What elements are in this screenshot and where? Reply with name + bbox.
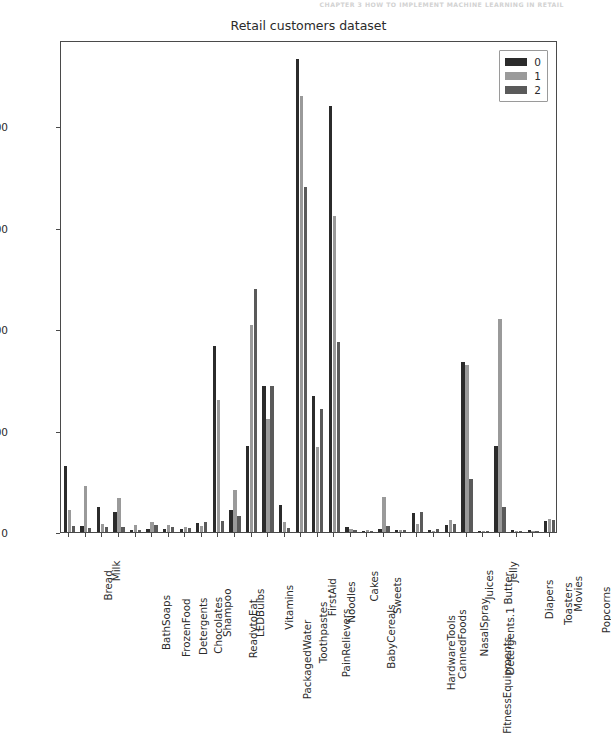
bar[interactable] <box>494 446 497 532</box>
bar[interactable] <box>329 106 332 532</box>
bar[interactable] <box>469 479 472 532</box>
bar[interactable] <box>399 530 402 532</box>
bar[interactable] <box>254 289 257 532</box>
x-tick-label: Sweets <box>391 577 403 614</box>
bar[interactable] <box>528 530 531 532</box>
bar[interactable] <box>64 466 67 532</box>
legend-item[interactable]: 2 <box>505 83 541 97</box>
bar[interactable] <box>154 525 157 532</box>
bar[interactable] <box>449 520 452 532</box>
bar[interactable] <box>101 524 104 532</box>
bar[interactable] <box>370 531 373 532</box>
bar[interactable] <box>134 525 137 532</box>
bar[interactable] <box>428 530 431 532</box>
bar[interactable] <box>519 531 522 532</box>
bar[interactable] <box>548 519 551 532</box>
bar[interactable] <box>453 524 456 532</box>
x-tick-label: Detergents.1 <box>504 607 516 674</box>
bar[interactable] <box>486 531 489 532</box>
x-tick-label-text: FrozenFood <box>180 598 192 656</box>
bar[interactable] <box>229 510 232 532</box>
bar[interactable] <box>221 521 224 532</box>
bar[interactable] <box>279 505 282 532</box>
bar[interactable] <box>337 342 340 532</box>
bar[interactable] <box>416 524 419 532</box>
bar[interactable] <box>130 530 133 532</box>
bar[interactable] <box>88 528 91 532</box>
bar[interactable] <box>287 528 290 532</box>
bar[interactable] <box>204 522 207 532</box>
bar[interactable] <box>535 531 538 532</box>
bar[interactable] <box>213 346 216 532</box>
bar[interactable] <box>146 529 149 532</box>
bar[interactable] <box>188 528 191 532</box>
bar[interactable] <box>180 529 183 532</box>
bar[interactable] <box>105 527 108 532</box>
bar[interactable] <box>515 531 518 532</box>
bar[interactable] <box>138 530 141 532</box>
bar[interactable] <box>502 507 505 532</box>
bar[interactable] <box>478 531 481 532</box>
x-tick-label-text: Vitamins <box>283 585 295 630</box>
bar[interactable] <box>461 362 464 532</box>
x-tick-label: FirstAid <box>326 578 338 616</box>
bar[interactable] <box>349 529 352 532</box>
bar[interactable] <box>237 516 240 532</box>
bar[interactable] <box>121 527 124 532</box>
bar[interactable] <box>511 530 514 532</box>
bar[interactable] <box>246 446 249 532</box>
bar[interactable] <box>531 531 534 532</box>
bar[interactable] <box>465 365 468 532</box>
bar[interactable] <box>171 527 174 532</box>
bar[interactable] <box>312 396 315 532</box>
bar[interactable] <box>362 531 365 532</box>
bar[interactable] <box>262 386 265 532</box>
legend-item[interactable]: 1 <box>505 69 541 83</box>
bar[interactable] <box>270 386 273 532</box>
bar[interactable] <box>395 530 398 532</box>
bar[interactable] <box>378 529 381 532</box>
bar[interactable] <box>266 419 269 532</box>
bar[interactable] <box>345 527 348 532</box>
bar[interactable] <box>250 325 253 532</box>
bar[interactable] <box>436 529 439 532</box>
x-tick-mark <box>184 533 185 537</box>
bar[interactable] <box>283 522 286 532</box>
bar[interactable] <box>382 497 385 532</box>
bar[interactable] <box>196 523 199 532</box>
bar[interactable] <box>316 447 319 532</box>
bar[interactable] <box>333 216 336 532</box>
bar[interactable] <box>300 96 303 532</box>
bar[interactable] <box>432 531 435 532</box>
bar[interactable] <box>72 526 75 532</box>
bar[interactable] <box>97 507 100 532</box>
bar[interactable] <box>544 521 547 532</box>
bar[interactable] <box>113 512 116 532</box>
bar[interactable] <box>412 513 415 532</box>
bar[interactable] <box>482 531 485 532</box>
bar[interactable] <box>403 530 406 532</box>
bar[interactable] <box>167 525 170 532</box>
bar[interactable] <box>200 526 203 532</box>
bar[interactable] <box>552 520 555 532</box>
bar[interactable] <box>117 498 120 532</box>
bar[interactable] <box>366 530 369 532</box>
legend-item[interactable]: 0 <box>505 55 541 69</box>
bar[interactable] <box>163 529 166 532</box>
bar[interactable] <box>80 526 83 532</box>
bar[interactable] <box>320 409 323 532</box>
bar[interactable] <box>84 486 87 532</box>
bar[interactable] <box>304 187 307 532</box>
bar[interactable] <box>498 319 501 532</box>
bar[interactable] <box>233 490 236 532</box>
bar[interactable] <box>420 512 423 532</box>
bar[interactable] <box>150 522 153 532</box>
bar[interactable] <box>184 527 187 532</box>
bar[interactable] <box>68 510 71 532</box>
bar[interactable] <box>386 526 389 532</box>
chart-legend[interactable]: 012 <box>499 50 548 102</box>
bar[interactable] <box>445 525 448 532</box>
bar[interactable] <box>353 530 356 532</box>
bar[interactable] <box>217 400 220 532</box>
bar[interactable] <box>296 59 299 532</box>
